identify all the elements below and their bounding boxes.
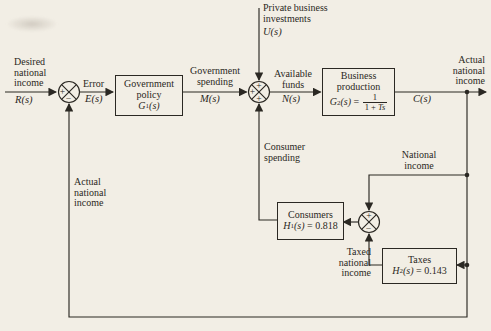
transfer-function: G2(s) = 11 + Ts [330,93,388,113]
signal-u: U(s) [263,26,282,37]
branch-node-taxes [465,263,470,268]
transfer-function: G1(s) [138,101,159,112]
taxed-national-income-label: Taxed national income [329,247,371,279]
minus-sign: − [66,94,71,104]
branch-node-national-income [465,173,470,178]
block-diagram-figure: + − + + + + − Government policy G1(s) Bu… [0,0,491,331]
fraction: 11 + Ts [363,93,388,113]
available-funds-label: Available funds [267,69,319,90]
plus-sign: + [60,87,65,97]
national-income-branch-line [369,175,467,210]
transfer-function: H1(s) = 0.818 [283,221,337,232]
signal-r: R(s) [15,94,33,105]
national-income-label: National income [394,150,444,171]
plus-sign: + [256,81,261,91]
transfer-function: H2(s) = 0.143 [392,266,446,277]
summing-junction-3: + − [359,211,380,234]
signal-m: M(s) [200,93,220,104]
actual-national-income-label-left: Actual national income [74,177,106,209]
government-policy-block: Government policy G1(s) [115,75,183,116]
taxes-block: Taxes H2(s) = 0.143 [382,248,457,284]
summing-junction-1: + − [59,82,80,104]
government-spending-label: Government spending [185,66,245,87]
consumers-block: Consumers H1(s) = 0.818 [277,202,344,240]
signal-c: C(s) [413,93,431,104]
actual-national-income-label-right: Actual national income [424,55,485,87]
business-production-block: Business production G2(s) = 11 + Ts [322,68,395,116]
plus-sign: + [256,94,261,104]
signal-n: N(s) [282,93,300,104]
consumer-spending-label: Consumer spending [264,142,305,163]
desired-national-income-label: Desired national income [14,57,46,89]
branch-node-output [465,90,470,95]
plus-sign: + [250,87,255,97]
private-investments-label: Private business investments [263,3,328,24]
signal-e: E(s) [85,93,103,104]
minus-sign: − [366,224,371,234]
error-label: Error [83,79,104,90]
plus-sign: + [366,211,371,221]
